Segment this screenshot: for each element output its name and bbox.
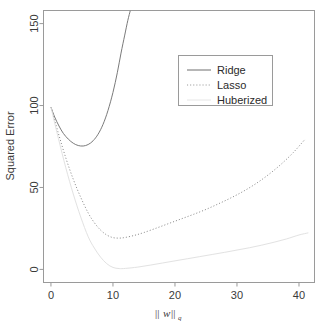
x-axis-title-subscript: q bbox=[178, 314, 182, 322]
legend-label-lasso: Lasso bbox=[217, 79, 246, 91]
y-axis-title: Squared Error bbox=[4, 111, 16, 180]
x-tick-label: 30 bbox=[231, 289, 243, 301]
x-tick-label: 10 bbox=[107, 289, 119, 301]
x-axis-title-variable: w bbox=[163, 307, 171, 319]
chart-legend: RidgeLassoHuberized bbox=[179, 56, 273, 107]
x-tick-label: 20 bbox=[169, 289, 181, 301]
y-tick-label: 100 bbox=[29, 96, 41, 114]
chart-plot-area: 050100150 010203040 Squared Error || w |… bbox=[0, 0, 334, 330]
y-tick-label: 150 bbox=[28, 14, 40, 32]
chart-figure: 050100150 010203040 Squared Error || w |… bbox=[0, 0, 334, 330]
x-tick-label: 0 bbox=[48, 289, 54, 301]
x-axis-title-bars-left: || bbox=[155, 307, 159, 319]
y-tick-label: 50 bbox=[29, 181, 41, 193]
chart-background bbox=[0, 0, 334, 330]
x-tick-label: 40 bbox=[293, 289, 305, 301]
x-axis-title-bars-right: || bbox=[171, 307, 175, 319]
legend-label-ridge: Ridge bbox=[217, 64, 246, 76]
y-tick-label: 0 bbox=[29, 266, 41, 272]
legend-label-huberized: Huberized bbox=[217, 94, 267, 106]
